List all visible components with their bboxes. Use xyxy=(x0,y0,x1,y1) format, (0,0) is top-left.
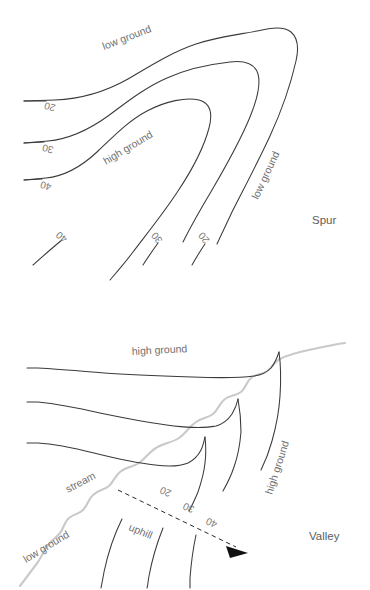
valley-caption: Valley xyxy=(309,530,340,542)
spur-contour-40-tail xyxy=(33,240,62,265)
spur-contour-label-40-left: 40 xyxy=(39,179,53,193)
valley-contour-label-40: 40 xyxy=(204,515,219,530)
valley-direction-arrow-line xyxy=(118,490,236,547)
spur-caption: Spur xyxy=(312,214,336,226)
spur-label-low-ground-right: low ground xyxy=(249,149,282,201)
valley-contour-stub-a xyxy=(101,519,122,588)
diagram-canvas: low ground high ground low ground 20 30 … xyxy=(0,0,370,590)
valley-panel: high ground high ground low ground strea… xyxy=(20,342,345,588)
valley-label-high-ground-right: high ground xyxy=(262,439,291,496)
spur-contour-label-20-left: 20 xyxy=(43,100,57,114)
spur-contour-label-30-left: 30 xyxy=(41,142,55,156)
spur-contour-30 xyxy=(24,62,259,243)
valley-label-uphill: uphill xyxy=(127,521,154,541)
valley-contour-label-20: 20 xyxy=(158,484,173,499)
valley-contour-stub-c xyxy=(190,535,196,588)
spur-contour-20 xyxy=(24,28,298,244)
valley-label-high-ground-top: high ground xyxy=(131,342,187,357)
spur-contour-label-30-bottom: 30 xyxy=(149,230,165,246)
valley-label-stream: stream xyxy=(63,469,97,495)
valley-direction-arrow-head xyxy=(226,546,248,558)
valley-contour-30-right xyxy=(223,399,241,491)
spur-contour-label-40-bottom: 40 xyxy=(53,229,69,245)
valley-contour-40 xyxy=(27,437,205,466)
valley-label-low-ground: low ground xyxy=(21,528,71,565)
spur-contour-40 xyxy=(24,99,211,280)
valley-contour-40-right xyxy=(189,437,206,511)
spur-label-low-ground-top: low ground xyxy=(100,22,152,52)
spur-panel: low ground high ground low ground 20 30 … xyxy=(24,22,336,280)
spur-label-high-ground: high ground xyxy=(101,128,155,167)
valley-contour-30 xyxy=(27,399,238,428)
spur-contour-20-tail xyxy=(192,244,205,265)
contour-diagram-figure: low ground high ground low ground 20 30 … xyxy=(0,0,370,590)
spur-contour-label-20-bottom: 20 xyxy=(196,230,212,246)
spur-contour-30-stub xyxy=(24,142,44,143)
spur-contour-40-stub xyxy=(24,179,42,180)
